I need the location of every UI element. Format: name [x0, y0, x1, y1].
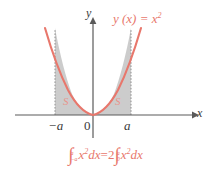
differential-1: dx [88, 147, 100, 162]
x-axis-label: x [197, 107, 202, 119]
area-label-left: S [63, 96, 69, 107]
integral-sign-2: ∫ [114, 144, 119, 165]
integral-equation: ∫a−ax2dx=2∫a0x2dx [0, 143, 211, 162]
integral-sign-1: ∫ [68, 144, 73, 165]
y-axis-label: y [86, 7, 91, 19]
area-label-right: S [115, 96, 121, 107]
equals-sign: = [101, 147, 108, 162]
x-tick-negative-a: −a [48, 119, 63, 132]
function-label-exponent: 2 [158, 11, 162, 20]
function-label: y (x) = x2 [113, 12, 162, 25]
function-label-text: y (x) = x [113, 11, 158, 26]
x-tick-origin: 0 [84, 119, 91, 132]
differential-2: dx [130, 147, 142, 162]
x-tick-positive-a: a [124, 119, 131, 132]
